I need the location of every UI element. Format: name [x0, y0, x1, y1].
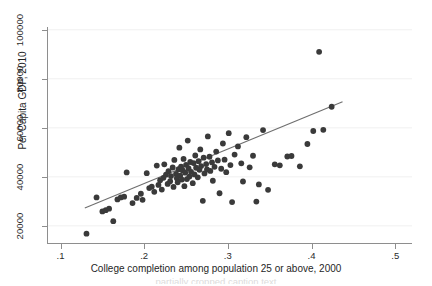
x-tick-label: .3 [224, 250, 232, 261]
data-point [140, 197, 146, 203]
data-point [94, 195, 100, 201]
data-point [310, 128, 316, 134]
data-point [272, 161, 278, 167]
data-point [185, 138, 191, 144]
x-tick-mark [228, 244, 229, 249]
data-point [207, 168, 213, 174]
x-tick-label: .5 [391, 250, 399, 261]
data-point [217, 190, 223, 196]
data-point [210, 178, 216, 184]
data-point [84, 231, 90, 237]
x-axis-line [47, 243, 412, 244]
y-tick-mark [42, 226, 47, 227]
data-point [124, 170, 130, 176]
data-point [195, 174, 201, 180]
data-point [250, 153, 256, 159]
data-point [238, 160, 244, 166]
data-point [151, 189, 157, 195]
fit-line [85, 102, 343, 208]
data-point [171, 157, 177, 163]
y-tick-mark [42, 177, 47, 178]
data-point [161, 161, 167, 167]
plot-area [48, 20, 412, 243]
x-tick-mark [395, 244, 396, 249]
data-point [138, 191, 144, 197]
data-point [205, 134, 211, 140]
x-tick-mark [61, 244, 62, 249]
data-point [168, 173, 174, 179]
data-point [159, 187, 165, 193]
data-point [226, 130, 232, 136]
data-point [223, 169, 229, 175]
data-point [134, 195, 140, 201]
x-tick-label: .4 [308, 250, 316, 261]
data-point [222, 157, 228, 163]
data-point [144, 170, 150, 176]
y-tick-mark [42, 128, 47, 129]
data-point [235, 144, 241, 150]
data-point [176, 145, 182, 151]
data-point [229, 199, 235, 205]
data-point [243, 134, 249, 140]
y-tick-label: 20000 [14, 206, 25, 246]
data-point [179, 177, 185, 183]
data-point [170, 165, 176, 171]
data-point [329, 104, 335, 110]
data-point [316, 49, 322, 55]
y-axis-title: Per Capita GDP, 2010 [17, 21, 28, 181]
data-point [197, 146, 203, 152]
data-point [320, 127, 326, 133]
data-point [240, 179, 246, 185]
data-point [215, 158, 221, 164]
scatter-plot-figure: 20000400006000080000100000 .1.2.3.4.5 Pe… [0, 0, 432, 286]
x-tick-label: .1 [57, 250, 65, 261]
data-point [200, 198, 206, 204]
data-point [149, 184, 155, 190]
data-point [218, 166, 224, 172]
data-point [232, 152, 238, 158]
data-point [212, 164, 218, 170]
data-point [213, 149, 219, 155]
data-point [201, 155, 207, 161]
data-point [181, 156, 187, 162]
data-point [196, 158, 202, 164]
y-tick-mark [42, 79, 47, 80]
data-point [167, 178, 173, 184]
data-point [182, 183, 188, 189]
data-point [192, 153, 198, 159]
data-point [265, 187, 271, 193]
data-point [253, 199, 259, 205]
data-point [130, 200, 136, 206]
data-point [289, 153, 295, 159]
data-point [247, 164, 253, 170]
data-point [207, 154, 213, 160]
data-point [203, 161, 209, 167]
y-tick-mark [42, 30, 47, 31]
x-axis-title: College completion among population 25 o… [0, 263, 432, 274]
x-tick-mark [312, 244, 313, 249]
data-point [297, 163, 303, 169]
y-axis-line [47, 27, 48, 243]
data-point [154, 163, 160, 169]
data-point [305, 141, 311, 147]
x-tick-mark [144, 244, 145, 249]
data-point [106, 206, 112, 212]
data-point [121, 194, 127, 200]
data-point [198, 163, 204, 169]
data-point [228, 162, 234, 168]
data-point [260, 127, 266, 133]
x-tick-label: .2 [140, 250, 148, 261]
data-point [277, 162, 283, 168]
data-point [171, 184, 177, 190]
data-point [190, 180, 196, 186]
plot-canvas [48, 20, 412, 243]
data-point [256, 182, 262, 188]
data-point [110, 218, 116, 224]
bottom-cropped-caption: partially cropped caption text [0, 277, 432, 284]
data-point [220, 141, 226, 147]
